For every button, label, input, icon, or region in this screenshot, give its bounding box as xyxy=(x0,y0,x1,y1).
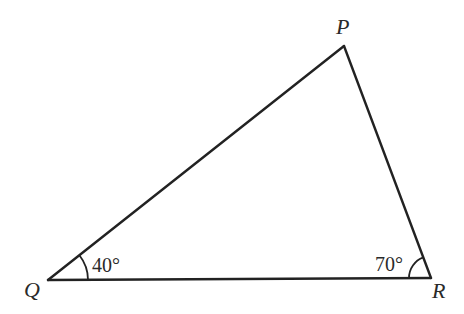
vertex-label-P: P xyxy=(335,14,349,39)
triangle-diagram: P Q R 40° 70° xyxy=(0,0,464,314)
angle-label-Q: 40° xyxy=(92,254,120,276)
angle-label-R: 70° xyxy=(375,253,403,275)
angle-arc-R xyxy=(409,257,423,278)
side-QR xyxy=(48,278,431,280)
angle-arc-Q xyxy=(79,255,88,280)
vertex-label-Q: Q xyxy=(24,277,40,302)
vertex-label-R: R xyxy=(431,278,446,303)
side-QP xyxy=(48,46,344,280)
side-PR xyxy=(344,46,431,278)
